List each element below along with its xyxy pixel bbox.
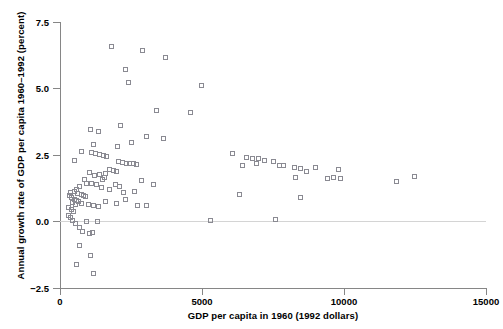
y-tick-label-2.5: 2.5 (5, 150, 49, 161)
data-point (114, 169, 119, 174)
data-point (313, 165, 318, 170)
data-point (103, 171, 108, 176)
data-point (237, 192, 242, 197)
y-tick-label-0.0: 0.0 (5, 216, 49, 227)
data-point (338, 176, 343, 181)
data-point (71, 209, 76, 214)
data-point (129, 140, 134, 145)
data-point (304, 169, 309, 174)
data-point (79, 201, 84, 206)
scatter-chart: Annual growth rate of GDP per capita 196… (0, 0, 503, 329)
data-point (230, 151, 235, 156)
data-point (74, 262, 79, 267)
data-point (95, 219, 100, 224)
data-point (103, 199, 108, 204)
data-point (126, 80, 131, 85)
x-tick-label-0: 0 (57, 296, 62, 307)
data-point (92, 173, 97, 178)
data-point (97, 172, 102, 177)
x-tick-label-10000: 10000 (331, 296, 357, 307)
x-tick-15000 (486, 288, 487, 295)
data-point (292, 165, 297, 170)
data-point (144, 134, 149, 139)
data-point (118, 123, 123, 128)
data-point (96, 204, 101, 209)
data-point (67, 193, 72, 198)
data-point (331, 175, 336, 180)
data-point (151, 182, 156, 187)
data-point (79, 149, 84, 154)
data-point (161, 136, 166, 141)
data-point (117, 184, 122, 189)
data-point (121, 190, 126, 195)
data-point (336, 167, 341, 172)
data-point (244, 155, 249, 160)
y-tick-label-7.5: 7.5 (5, 17, 49, 28)
data-point (298, 195, 303, 200)
data-point (134, 162, 139, 167)
data-point (87, 170, 92, 175)
data-point (163, 55, 168, 60)
x-axis-title: GDP per capita in 1960 (1992 dollars) (60, 310, 486, 321)
data-point (135, 203, 140, 208)
y-tick-2.5 (53, 155, 60, 156)
data-point (293, 175, 298, 180)
data-point (91, 271, 96, 276)
x-tick-0 (60, 288, 61, 295)
data-point (88, 127, 93, 132)
x-tick-10000 (344, 288, 345, 295)
data-point (325, 176, 330, 181)
data-point (114, 201, 119, 206)
data-point (87, 231, 92, 236)
data-point (107, 187, 112, 192)
data-point (96, 129, 101, 134)
data-point (91, 142, 96, 147)
data-point (83, 194, 88, 199)
data-point (144, 203, 149, 208)
data-point (100, 177, 105, 182)
data-point (199, 83, 204, 88)
y-tick-5.0 (53, 88, 60, 89)
data-point (99, 185, 104, 190)
data-point (154, 108, 159, 113)
data-point (262, 158, 267, 163)
y-tick-0.0 (53, 221, 60, 222)
data-point (123, 197, 128, 202)
data-point (80, 229, 85, 234)
data-point (72, 158, 77, 163)
data-point (254, 161, 259, 166)
y-tick-7.5 (53, 22, 60, 23)
data-point (281, 163, 286, 168)
data-point (273, 217, 278, 222)
data-point (123, 67, 128, 72)
data-point (140, 48, 145, 53)
data-point (250, 156, 255, 161)
y-tick-minus2.5 (53, 288, 60, 289)
x-tick-5000 (202, 288, 203, 295)
data-point (73, 202, 78, 207)
data-point (412, 174, 417, 179)
data-point (104, 154, 109, 159)
data-point (88, 253, 93, 258)
data-point (271, 159, 276, 164)
data-point (188, 110, 193, 115)
x-tick-label-15000: 15000 (473, 296, 499, 307)
data-point (208, 218, 213, 223)
y-axis-title: Annual growth rate of GDP per capita 196… (15, 0, 26, 296)
data-point (139, 178, 144, 183)
x-tick-label-5000: 5000 (191, 296, 212, 307)
plot-area (60, 22, 486, 289)
data-point (84, 219, 89, 224)
data-point (394, 179, 399, 184)
data-point (132, 189, 137, 194)
data-point (115, 144, 120, 149)
data-point (109, 44, 114, 49)
y-tick-label-minus2.5: −2.5 (5, 283, 49, 294)
y-tick-label-5.0: 5.0 (5, 83, 49, 94)
data-point (240, 163, 245, 168)
data-point (77, 243, 82, 248)
